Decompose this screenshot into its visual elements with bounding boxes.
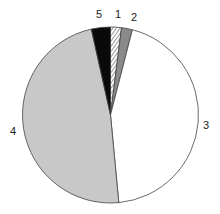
pie-chart [0, 0, 220, 214]
slice-label-2: 2 [131, 12, 137, 23]
slice-label-5: 5 [96, 9, 102, 20]
slice-label-4: 4 [10, 126, 16, 137]
slice-label-1: 1 [115, 9, 121, 20]
slice-label-3: 3 [203, 120, 209, 131]
